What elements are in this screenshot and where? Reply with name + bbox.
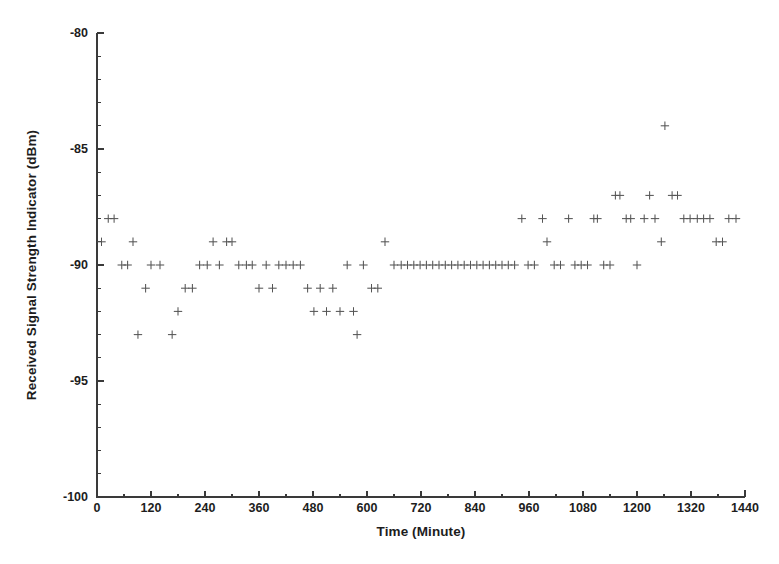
x-tick-label: 240 [175,501,235,515]
x-tick-label: 600 [337,501,397,515]
x-tick-label: 1200 [607,501,667,515]
x-tick-label: 1320 [661,501,721,515]
x-tick-label: 360 [229,501,289,515]
x-tick-label: 0 [67,501,127,515]
data-markers [97,122,740,339]
x-tick-label: 120 [121,501,181,515]
plot-area [0,0,779,564]
x-axis-label: Time (Minute) [97,524,745,539]
x-tick-label: 1440 [715,501,775,515]
chart-figure: Received Signal Strength Indicator (dBm)… [0,0,779,564]
x-tick-label: 720 [391,501,451,515]
x-tick-label: 480 [283,501,343,515]
x-tick-label: 840 [445,501,505,515]
x-tick-label: 1080 [553,501,613,515]
x-tick-label: 960 [499,501,559,515]
